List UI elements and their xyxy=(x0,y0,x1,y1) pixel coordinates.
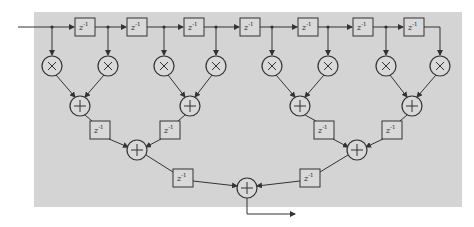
adder-l1-2 xyxy=(180,96,200,116)
delay-box-l2-3: z-1 xyxy=(314,121,334,139)
delay-box-input-7: z-1 xyxy=(404,18,424,36)
delay-box-input-5: z-1 xyxy=(298,18,318,36)
adder-l1-1 xyxy=(70,96,90,116)
delay-box-l3-1: z-1 xyxy=(173,169,193,187)
delay-box-l2-2: z-1 xyxy=(160,121,180,139)
fir-filter-diagram: z-1z-1z-1z-1z-1z-1z-1z-1z-1z-1z-1z-1z-1 xyxy=(0,0,474,227)
multiplier-2 xyxy=(98,56,118,76)
delay-box-l2-1: z-1 xyxy=(90,121,110,139)
delay-box-l2-4: z-1 xyxy=(382,121,402,139)
adder-l1-4 xyxy=(402,96,422,116)
delay-box-input-4: z-1 xyxy=(240,18,260,36)
multiplier-7 xyxy=(376,56,396,76)
delay-box-input-6: z-1 xyxy=(353,18,373,36)
adder-final xyxy=(237,178,257,198)
adder-l2-2 xyxy=(347,140,367,160)
delay-box-input-3: z-1 xyxy=(184,18,204,36)
multiplier-6 xyxy=(318,56,338,76)
multiplier-1 xyxy=(42,56,62,76)
delay-box-input-1: z-1 xyxy=(75,18,95,36)
adder-l2-1 xyxy=(127,140,147,160)
multiplier-8 xyxy=(430,56,450,76)
delay-box-input-2: z-1 xyxy=(127,18,147,36)
multiplier-3 xyxy=(154,56,174,76)
adder-l1-3 xyxy=(290,96,310,116)
multiplier-5 xyxy=(262,56,282,76)
multiplier-4 xyxy=(206,56,226,76)
delay-box-l3-2: z-1 xyxy=(300,169,320,187)
